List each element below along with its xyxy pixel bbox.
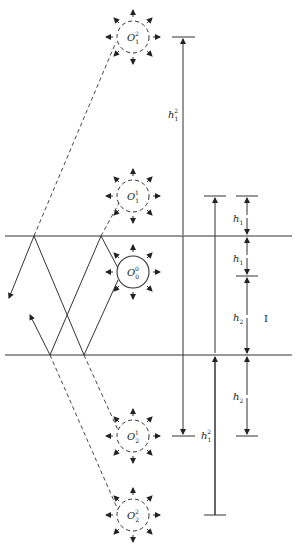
dimension-lines (172, 37, 258, 515)
source-O2-1: O21 (106, 409, 160, 463)
label-h2-b: h2 (233, 391, 243, 404)
label-h1-2-lower: h12 (201, 428, 211, 443)
label-h1-b: h1 (233, 253, 243, 266)
source-O0-0: O00 (106, 245, 160, 299)
layer-label: I (264, 313, 268, 324)
virtual-rays (34, 42, 119, 510)
label-h2-a: h2 (233, 312, 243, 325)
svg-text:O11: O11 (127, 189, 139, 204)
source-O2-2: O22 (106, 488, 160, 542)
source-O1-1: O11 (106, 169, 160, 223)
label-h1-2-upper: h12 (168, 107, 178, 122)
svg-text:O22: O22 (127, 508, 139, 523)
svg-text:O12: O12 (127, 30, 139, 45)
source-O1-2: O12 (106, 10, 160, 64)
label-h1-a: h1 (233, 213, 243, 226)
svg-text:O00: O00 (127, 265, 139, 280)
svg-text:O21: O21 (127, 429, 139, 444)
ray-paths (9, 236, 118, 355)
mirror-image-diagram: O12 O11 O00 O21 O22 (0, 0, 297, 553)
